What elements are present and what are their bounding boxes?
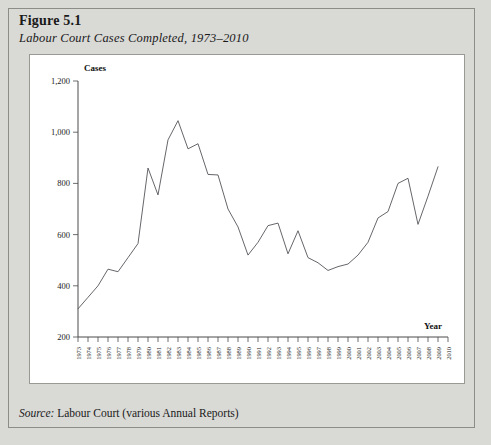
source-text: Labour Court (various Annual Reports) (57, 407, 238, 419)
x-axis-tick-label: 2007 (415, 346, 422, 360)
x-axis-tick-label: 2001 (355, 347, 362, 360)
x-axis-tick-label: 1991 (255, 347, 262, 360)
x-axis-tick-label: 2005 (395, 347, 402, 360)
x-axis-tick-label: 2010 (445, 347, 452, 360)
figure-number: Figure 5.1 (19, 13, 81, 29)
x-axis-tick-label: 1987 (215, 346, 222, 360)
x-axis-tick-label: 1974 (85, 346, 92, 360)
x-axis-tick-label: 1977 (115, 346, 122, 360)
x-axis-tick-label: 2009 (435, 347, 442, 360)
x-axis-tick-label: 2002 (365, 347, 372, 360)
x-axis-tick-label: 1994 (285, 346, 292, 360)
x-axis-tick-label: 1997 (315, 346, 322, 360)
figure-caption: Labour Court Cases Completed, 1973–2010 (19, 31, 249, 46)
y-axis-title: Cases (84, 63, 106, 73)
y-axis-tick-label: 400 (57, 281, 70, 291)
x-axis-tick-label: 1979 (135, 347, 142, 360)
x-axis-tick-label: 1984 (185, 346, 192, 360)
x-axis-tick-label: 1980 (145, 347, 152, 360)
x-axis-tick-label: 1989 (235, 347, 242, 360)
x-axis-tick-label: 1988 (225, 347, 232, 360)
x-axis-tick-label: 1975 (95, 347, 102, 360)
x-axis-tick-label: 1982 (165, 347, 172, 360)
x-axis-tick-label: 1973 (75, 347, 82, 360)
y-axis-tick-label: 600 (57, 230, 70, 240)
data-series-line (78, 121, 438, 309)
x-axis-tick-label: 2006 (405, 347, 412, 360)
x-axis-tick-label: 1990 (245, 347, 252, 360)
y-axis-tick-label: 1,000 (51, 127, 70, 137)
x-axis-tick-label: 2004 (385, 346, 392, 360)
x-axis-title: Year (424, 321, 442, 331)
x-axis-tick-label: 1992 (265, 347, 272, 360)
x-axis-tick-label: 1999 (335, 347, 342, 360)
y-axis-tick-label: 1,200 (51, 76, 70, 86)
x-axis-tick-label: 1976 (105, 347, 112, 360)
x-axis-tick-label: 1983 (175, 347, 182, 360)
x-axis-tick-label: 2008 (425, 347, 432, 360)
y-axis-tick-label: 200 (57, 332, 70, 342)
x-axis-tick-label: 1996 (305, 347, 312, 360)
x-axis-tick-label: 1985 (195, 347, 202, 360)
x-axis-tick-label: 1978 (125, 347, 132, 360)
x-axis-tick-label: 1993 (275, 347, 282, 360)
x-axis-tick-label: 1981 (155, 347, 162, 360)
y-axis-tick-label: 800 (57, 178, 70, 188)
x-axis-tick-label: 2003 (375, 347, 382, 360)
x-axis-tick-label: 1998 (325, 347, 332, 360)
chart-plot-panel: 1,2001,000800600400200CasesYear197319741… (29, 54, 465, 384)
line-chart: 1,2001,000800600400200CasesYear197319741… (30, 55, 464, 383)
x-axis-tick-label: 2000 (345, 347, 352, 360)
x-axis-tick-label: 1986 (205, 347, 212, 360)
source-note: Source: Labour Court (various Annual Rep… (19, 407, 239, 419)
x-axis-tick-label: 1995 (295, 347, 302, 360)
source-label: Source: (19, 407, 54, 419)
figure-card: Figure 5.1 Labour Court Cases Completed,… (8, 8, 475, 428)
